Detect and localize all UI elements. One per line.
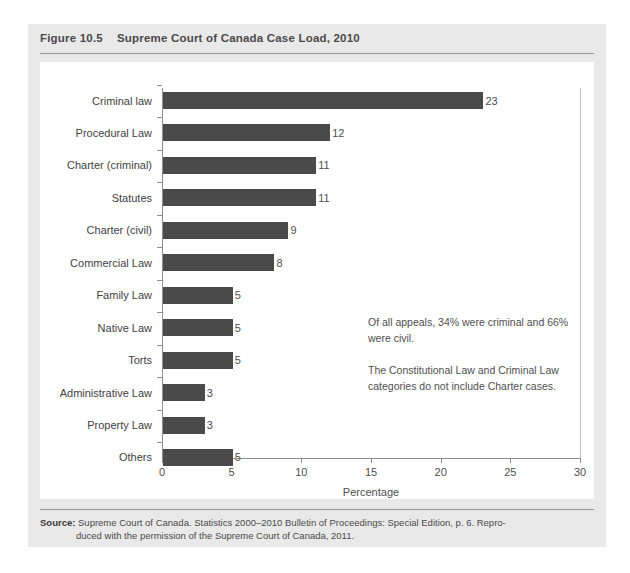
bar-value-label: 5 [235,289,241,301]
chart-canvas: 051015202530 Criminal lawProcedural LawC… [40,62,594,499]
x-axis-tick [371,458,372,463]
plot-right-border [580,88,581,458]
x-axis-tick [301,458,302,463]
bar [163,449,233,466]
bar-value-label: 5 [235,451,241,463]
source-divider [40,509,594,510]
x-axis-tick [580,458,581,463]
annotation-appeals-split: Of all appeals, 34% were criminal and 66… [368,314,583,346]
bar [163,92,483,109]
bar [163,319,233,336]
figure-header: Figure 10.5 Supreme Court of Canada Case… [28,24,606,52]
header-divider [40,53,594,54]
y-axis-tick [157,442,162,443]
category-label: Commercial Law [70,257,152,269]
x-axis-tick-label: 20 [435,466,447,478]
category-label: Criminal law [92,95,152,107]
category-label: Family Law [96,289,152,301]
x-axis-tick [441,458,442,463]
y-axis-tick [157,410,162,411]
x-axis-tick-label: 10 [295,466,307,478]
bar [163,189,316,206]
bar-value-label: 23 [485,95,497,107]
category-label: Others [119,451,152,463]
bar [163,417,205,434]
x-axis-tick-label: 15 [365,466,377,478]
y-axis-tick [157,345,162,346]
y-axis-line [162,88,163,458]
bar-chart-plot: 051015202530 Criminal lawProcedural LawC… [40,62,594,499]
y-axis-tick [157,117,162,118]
category-label: Charter (civil) [87,224,152,236]
category-label: Administrative Law [60,387,152,399]
figure-panel: Figure 10.5 Supreme Court of Canada Case… [28,24,606,547]
bar-value-label: 5 [235,322,241,334]
source-text-line1: Supreme Court of Canada. Statistics 2000… [78,517,506,528]
bar-value-label: 3 [207,419,213,431]
bar [163,222,288,239]
bar-value-label: 11 [318,159,329,171]
bar [163,157,316,174]
y-axis-tick [157,182,162,183]
bar-value-label: 3 [207,387,213,399]
y-axis-tick [157,215,162,216]
bar [163,384,205,401]
bar [163,352,233,369]
source-note: Source: Supreme Court of Canada. Statist… [40,516,596,542]
x-axis-tick [510,458,511,463]
bar-value-label: 5 [235,354,241,366]
y-axis-tick [157,377,162,378]
y-axis-tick [157,85,162,86]
bar-value-label: 9 [290,224,296,236]
source-label: Source: [40,517,75,528]
source-text-line2: duced with the permission of the Supreme… [76,529,596,542]
bar-value-label: 8 [276,257,282,269]
category-label: Charter (criminal) [67,159,152,171]
x-axis-title: Percentage [162,486,580,498]
category-label: Statutes [112,192,152,204]
bar [163,287,233,304]
figure-title: Supreme Court of Canada Case Load, 2010 [117,32,360,44]
y-axis-tick [157,280,162,281]
bar [163,254,274,271]
category-label: Native Law [98,322,152,334]
y-axis-tick [157,312,162,313]
y-axis-tick [157,247,162,248]
category-label: Torts [128,354,152,366]
category-label: Property Law [87,419,152,431]
x-axis-tick-label: 5 [229,466,235,478]
y-axis-tick [157,150,162,151]
category-label: Procedural Law [76,127,152,139]
bar [163,124,330,141]
x-axis-tick-label: 30 [574,466,586,478]
x-axis-tick-label: 0 [159,466,165,478]
bar-value-label: 11 [318,192,329,204]
bar-value-label: 12 [332,127,344,139]
x-axis-tick-label: 25 [504,466,516,478]
annotation-charter-note: The Constitutional Law and Criminal Law … [368,362,583,394]
figure-number: Figure 10.5 [40,32,103,44]
